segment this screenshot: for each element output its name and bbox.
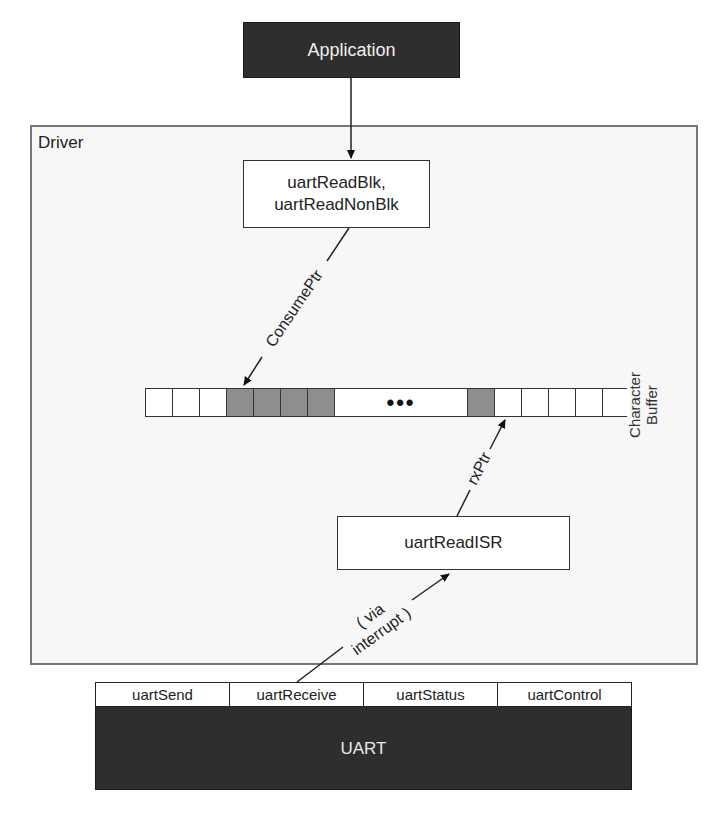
driver-label: Driver	[38, 133, 83, 153]
uart-func-control: uartControl	[498, 683, 631, 706]
uart-func-status: uartStatus	[364, 683, 498, 706]
buffer-ellipsis-cell: •••	[335, 389, 468, 416]
buffer-cell-empty	[495, 389, 522, 416]
read-isr-box: uartReadISR	[337, 516, 570, 570]
uart-label: UART	[95, 707, 632, 790]
buffer-label-line1: Character	[626, 372, 643, 438]
buffer-cell-filled	[281, 389, 308, 416]
character-buffer-label: Character Buffer	[628, 355, 658, 455]
buffer-label-line2: Buffer	[643, 372, 660, 438]
buffer-cell-empty	[200, 389, 227, 416]
buffer-cell-empty	[146, 389, 173, 416]
uart-function-row: uartSend uartReceive uartStatus uartCont…	[95, 682, 632, 707]
buffer-cell-empty	[549, 389, 576, 416]
uart-func-receive: uartReceive	[230, 683, 364, 706]
application-block: Application	[243, 22, 460, 78]
buffer-cell-filled	[308, 389, 335, 416]
buffer-cell-empty	[522, 389, 549, 416]
buffer-cell-filled	[254, 389, 281, 416]
buffer-cell-filled	[227, 389, 254, 416]
read-isr-label: uartReadISR	[404, 532, 502, 554]
character-buffer: •••	[145, 388, 627, 417]
read-nonblk-label: uartReadNonBlk	[274, 194, 399, 216]
uart-func-send: uartSend	[96, 683, 230, 706]
read-blk-label: uartReadBlk,	[287, 172, 385, 194]
application-label: Application	[307, 40, 395, 61]
buffer-cell-empty	[576, 389, 603, 416]
buffer-cell-empty	[173, 389, 200, 416]
buffer-cell-filled	[468, 389, 495, 416]
read-functions-box: uartReadBlk, uartReadNonBlk	[243, 160, 430, 228]
